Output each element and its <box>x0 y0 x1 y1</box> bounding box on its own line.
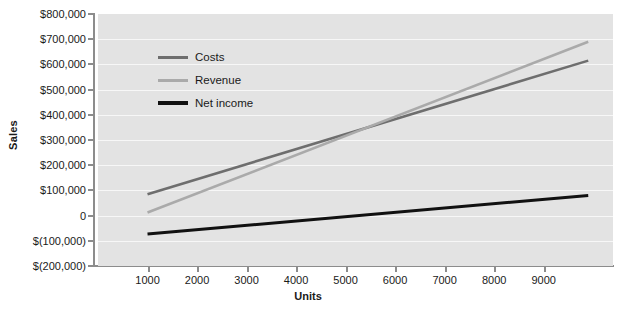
x-axis-tick-label: 9000 <box>531 274 555 286</box>
legend-swatch-icon <box>158 56 188 59</box>
y-axis-tick-label: $200,000 <box>24 159 86 171</box>
x-axis-tick-label: 8000 <box>482 274 506 286</box>
y-axis-tick-label: $500,000 <box>24 84 86 96</box>
legend-swatch-icon <box>158 101 188 105</box>
y-axis-tick-label: $400,000 <box>24 109 86 121</box>
x-axis-tick <box>247 265 249 272</box>
y-axis-tick <box>88 164 95 166</box>
x-axis-title-label: Units <box>294 290 322 302</box>
line-chart: Sales $800,000$700,000$600,000$500,000$4… <box>0 0 630 310</box>
x-axis-tick <box>395 265 397 272</box>
x-axis-tick <box>346 265 348 272</box>
legend-item[interactable]: Net income <box>158 96 253 110</box>
legend-label: Revenue <box>195 74 241 86</box>
legend: CostsRevenueNet income <box>158 50 253 110</box>
y-axis-tick-label: $(200,000) <box>24 260 86 272</box>
y-axis-tick-label: $300,000 <box>24 134 86 146</box>
y-axis-tick <box>88 240 95 242</box>
x-axis-tick-label: 7000 <box>432 274 456 286</box>
x-axis-title: Units <box>0 290 630 302</box>
y-axis-title: Sales <box>2 0 24 270</box>
x-axis-tick <box>296 265 298 272</box>
legend-item[interactable]: Revenue <box>158 73 253 87</box>
y-axis-title-label: Sales <box>7 120 19 150</box>
y-axis-tick <box>88 114 95 116</box>
legend-item[interactable]: Costs <box>158 50 253 64</box>
y-axis-tick-label: $100,000 <box>24 184 86 196</box>
y-axis-tick <box>88 63 95 65</box>
x-axis-tick <box>544 265 546 272</box>
y-axis-tick-labels: $800,000$700,000$600,000$500,000$400,000… <box>24 0 86 278</box>
x-axis-tick-label: 5000 <box>333 274 357 286</box>
y-axis-tick <box>88 215 95 217</box>
y-axis-tick-label: 0 <box>24 210 86 222</box>
x-axis-tick-label: 4000 <box>284 274 308 286</box>
x-axis-tick-label: 1000 <box>135 274 159 286</box>
legend-label: Costs <box>195 51 224 63</box>
y-axis-tick-label: $800,000 <box>24 8 86 20</box>
y-axis-tick-label: $(100,000) <box>24 235 86 247</box>
y-axis-tick <box>88 13 95 15</box>
series-line-net-income <box>148 195 589 234</box>
x-axis-tick-label: 3000 <box>234 274 258 286</box>
y-axis-tick <box>88 265 95 267</box>
x-axis-tick-label: 2000 <box>185 274 209 286</box>
legend-label: Net income <box>195 97 253 109</box>
y-axis-tick <box>88 38 95 40</box>
x-axis-tick <box>148 265 150 272</box>
x-axis-tick-labels: 100020003000400050006000700080009000 <box>0 274 630 290</box>
x-axis-tick <box>197 265 199 272</box>
x-axis-tick <box>445 265 447 272</box>
y-axis-tick <box>88 89 95 91</box>
y-axis-tick <box>88 189 95 191</box>
y-axis-tick <box>88 139 95 141</box>
x-axis-tick <box>494 265 496 272</box>
x-axis-tick-label: 6000 <box>383 274 407 286</box>
legend-swatch-icon <box>158 79 188 82</box>
y-axis-tick-label: $600,000 <box>24 58 86 70</box>
y-axis-tick-label: $700,000 <box>24 33 86 45</box>
